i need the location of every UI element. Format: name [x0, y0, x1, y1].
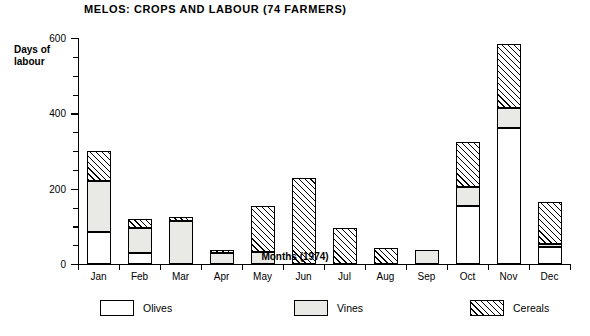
y-axis-tick-label: 600: [49, 33, 66, 44]
x-axis-separator: [283, 264, 284, 270]
x-axis-tick-label: Oct: [447, 271, 488, 282]
y-axis-title-line1: Days of: [14, 44, 50, 56]
y-axis-tick-label: 400: [49, 108, 66, 119]
chart-container: MELOS: CROPS AND LABOUR (74 FARMERS) Day…: [0, 0, 590, 336]
bar-stack-oct: [456, 142, 480, 264]
bar-segment-cereals: [169, 217, 193, 221]
legend-swatch-cereals: [470, 300, 504, 316]
chart-legend: OlivesVinesCereals: [100, 300, 520, 330]
x-axis-separator: [324, 264, 325, 270]
legend-swatch-vines: [294, 300, 328, 316]
bar-segment-cereals: [87, 151, 111, 181]
x-axis-tick-label: Feb: [119, 271, 160, 282]
y-axis-title-line2: labour: [14, 56, 50, 68]
x-axis-separator: [242, 264, 243, 270]
x-axis-tick-label: Dec: [529, 271, 570, 282]
bar-segment-cereals: [497, 44, 521, 108]
bar-segment-cereals: [128, 219, 152, 228]
bar-segment-vines: [128, 228, 152, 252]
x-axis-tick-label: Jun: [283, 271, 324, 282]
x-axis-separator: [447, 264, 448, 270]
bar-segment-vines: [456, 187, 480, 206]
x-axis-tick-label: Mar: [160, 271, 201, 282]
x-axis-separator: [529, 264, 530, 270]
x-axis-separator: [160, 264, 161, 270]
bar-segment-vines: [497, 108, 521, 129]
x-axis-tick-label: Sep: [406, 271, 447, 282]
bar-segment-vines: [87, 181, 111, 232]
x-axis-tick-label: Apr: [201, 271, 242, 282]
x-axis-separator: [201, 264, 202, 270]
legend-swatch-olives: [100, 300, 134, 316]
bar-segment-cereals: [251, 206, 275, 252]
x-axis-separator: [406, 264, 407, 270]
x-axis-title: Months (1974): [0, 251, 590, 262]
x-axis-separator: [365, 264, 366, 270]
bar-series-area: [78, 38, 570, 264]
x-axis-tick-label: Nov: [488, 271, 529, 282]
x-axis-separator: [78, 264, 79, 270]
x-axis-tick-label: Jan: [78, 271, 119, 282]
bar-segment-vines: [538, 244, 562, 247]
x-axis-separator: [570, 264, 571, 270]
x-axis-tick-label: Aug: [365, 271, 406, 282]
y-axis-title: Days of labour: [14, 44, 50, 68]
plot-area: 0200400600 JanFebMarAprMayJunJulAugSepOc…: [78, 38, 570, 264]
bar-segment-olives: [497, 128, 521, 264]
x-axis-separator: [488, 264, 489, 270]
y-axis-tick-label: 200: [49, 183, 66, 194]
legend-label: Olives: [143, 302, 172, 314]
legend-item-cereals: Cereals: [470, 300, 549, 316]
chart-title: MELOS: CROPS AND LABOUR (74 FARMERS): [84, 3, 347, 15]
legend-item-vines: Vines: [294, 300, 363, 316]
legend-item-olives: Olives: [100, 300, 172, 316]
x-axis-tick-label: May: [242, 271, 283, 282]
bar-stack-nov: [497, 44, 521, 264]
legend-label: Cereals: [513, 302, 549, 314]
legend-label: Vines: [337, 302, 363, 314]
bar-segment-cereals: [456, 142, 480, 187]
x-axis-separator: [119, 264, 120, 270]
bar-stack-jan: [87, 151, 111, 264]
x-axis-tick-label: Jul: [324, 271, 365, 282]
bar-segment-cereals: [538, 202, 562, 245]
